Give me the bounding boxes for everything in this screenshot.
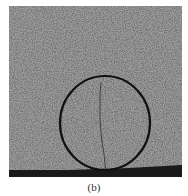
specimen-photo	[9, 6, 182, 177]
figure: (b)	[0, 0, 188, 196]
surface-speckle	[9, 6, 182, 177]
figure-caption: (b)	[0, 181, 188, 194]
